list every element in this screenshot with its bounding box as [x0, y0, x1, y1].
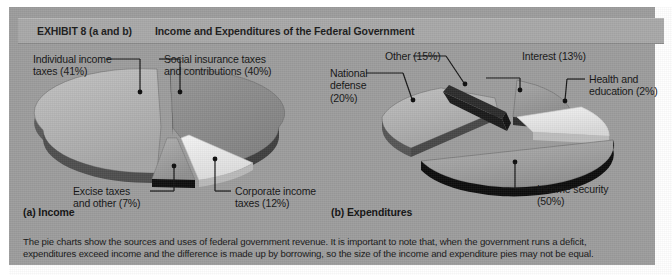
label-other: Other (15%)	[385, 50, 441, 62]
label-social-insurance-taxes: Social insurance taxes and contributions…	[164, 53, 271, 78]
label-income-security: Income security (50%)	[537, 183, 608, 208]
slice-individual-income-taxes	[34, 69, 161, 183]
label-health-education: Health and education (2%)	[589, 73, 658, 98]
slice-national-defense	[382, 88, 498, 157]
pie-charts-graphic	[9, 7, 672, 275]
label-individual-income-taxes: Individual income taxes (41%)	[33, 53, 112, 78]
pie-chart-expenditures	[366, 56, 614, 196]
label-national-defense: National defense (20%)	[330, 67, 367, 104]
label-excise-taxes: Excise taxes and other (7%)	[73, 185, 140, 210]
pie-chart-income	[34, 59, 285, 191]
panel-label-b-expenditures: (b) Expenditures	[331, 206, 412, 218]
panel-label-a-income: (a) Income	[23, 206, 75, 218]
label-corporate-income-taxes: Corporate income taxes (12%)	[235, 185, 316, 210]
figure-caption-text: The pie charts show the sources and uses…	[23, 236, 641, 261]
figure-caption: The pie charts show the sources and uses…	[23, 236, 641, 261]
label-interest: Interest (13%)	[522, 50, 586, 62]
